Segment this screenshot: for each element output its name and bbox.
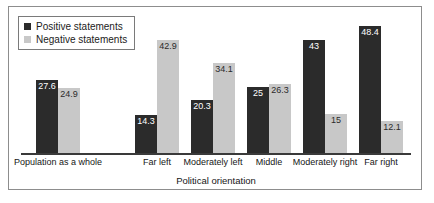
category-label: Moderately left [183, 157, 242, 168]
category-label: Far right [364, 157, 398, 168]
bar-negative: 15 [325, 114, 347, 154]
x-axis-line [21, 153, 411, 155]
bar-positive: 14.3 [135, 115, 157, 153]
bar-group-middle: 25 26.3 Middle [241, 45, 297, 153]
legend-swatch-positive-icon [24, 23, 31, 30]
bar-negative: 26.3 [269, 84, 291, 153]
legend-label-negative: Negative statements [36, 33, 127, 46]
category-label: Moderately right [293, 157, 358, 168]
bar-value-negative: 34.1 [213, 64, 235, 74]
chart-legend: Positive statements Negative statements [18, 16, 135, 50]
bar-positive: 20.3 [191, 100, 213, 153]
bar-value-positive: 48.4 [359, 27, 381, 37]
bar-positive: 43 [303, 40, 325, 153]
bar-pair: 20.3 34.1 [185, 45, 241, 153]
bar-pair: 27.6 24.9 [23, 45, 93, 153]
bar-pair: 48.4 12.1 [353, 45, 409, 153]
category-label: Population as a whole [14, 157, 102, 168]
bar-value-positive: 20.3 [191, 101, 213, 111]
bar-pair: 25 26.3 [241, 45, 297, 153]
bar-value-positive: 25 [247, 88, 269, 98]
bar-value-negative: 24.9 [58, 89, 80, 99]
bar-value-positive: 14.3 [135, 116, 157, 126]
bar-value-negative: 42.9 [157, 41, 179, 51]
bar-value-negative: 12.1 [381, 122, 403, 132]
bar-value-positive: 27.6 [36, 81, 58, 91]
bar-pair: 43 15 [297, 45, 353, 153]
category-label: Far left [143, 157, 171, 168]
bar-group-population-as-a-whole: 27.6 24.9 Population as a whole [23, 45, 93, 153]
legend-label-positive: Positive statements [36, 20, 123, 33]
bar-negative: 12.1 [381, 121, 403, 153]
chart-frame: Positive statements Negative statements … [8, 6, 422, 190]
x-axis-title: Political orientation [9, 175, 423, 186]
bar-value-positive: 43 [303, 41, 325, 51]
legend-swatch-negative-icon [24, 36, 31, 43]
bar-pair: 14.3 42.9 [129, 45, 185, 153]
bar-group-far-right: 48.4 12.1 Far right [353, 45, 409, 153]
bar-group-moderately-left: 20.3 34.1 Moderately left [185, 45, 241, 153]
legend-item-negative: Negative statements [24, 33, 127, 46]
legend-item-positive: Positive statements [24, 20, 127, 33]
bar-negative: 24.9 [58, 88, 80, 154]
bar-value-negative: 15 [325, 115, 347, 125]
bar-group-moderately-right: 43 15 Moderately right [297, 45, 353, 153]
bar-positive: 48.4 [359, 26, 381, 153]
bar-negative: 34.1 [213, 63, 235, 153]
bar-negative: 42.9 [157, 40, 179, 153]
bar-positive: 25 [247, 87, 269, 153]
bar-value-negative: 26.3 [269, 85, 291, 95]
bar-positive: 27.6 [36, 80, 58, 153]
category-label: Middle [256, 157, 283, 168]
bar-group-far-left: 14.3 42.9 Far left [129, 45, 185, 153]
plot-area: Positive statements Negative statements … [9, 7, 423, 191]
